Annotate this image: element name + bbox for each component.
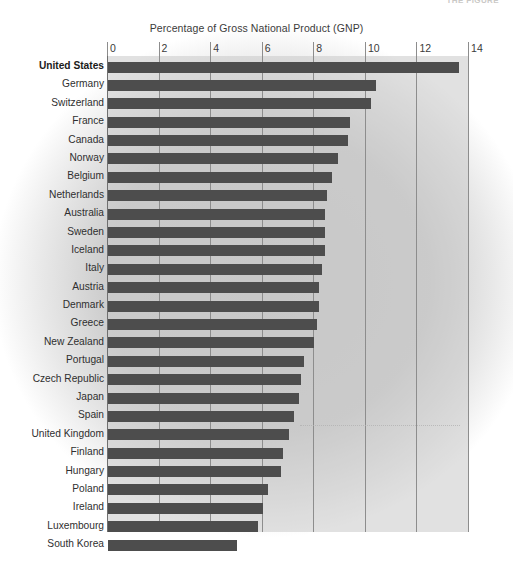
- category-label: Austria: [0, 281, 104, 292]
- x-tick-label-6: 6: [262, 42, 271, 54]
- bar: [108, 448, 283, 459]
- bar: [108, 282, 319, 293]
- category-label: Netherlands: [0, 189, 104, 200]
- category-label: Luxembourg: [0, 520, 104, 531]
- bar-row: Portugal: [0, 352, 513, 370]
- bar: [108, 356, 304, 367]
- bar-row: New Zealand: [0, 334, 513, 352]
- bar-row: Austria: [0, 279, 513, 297]
- category-label: Finland: [0, 446, 104, 457]
- category-label: Czech Republic: [0, 373, 104, 384]
- category-label: Poland: [0, 483, 104, 494]
- bar: [108, 227, 325, 238]
- x-tick-label-0: 0: [107, 42, 116, 54]
- category-label: Italy: [0, 262, 104, 273]
- bar: [108, 153, 338, 164]
- bar-row: Canada: [0, 132, 513, 150]
- bar: [108, 374, 301, 385]
- bar: [108, 190, 327, 201]
- bar-row: South Korea: [0, 536, 513, 554]
- bar-row: Ireland: [0, 499, 513, 517]
- bar-row: United Kingdom: [0, 426, 513, 444]
- category-label: Hungary: [0, 465, 104, 476]
- category-label: Belgium: [0, 170, 104, 181]
- bar: [108, 209, 325, 220]
- bar: [108, 521, 258, 532]
- bar-rows: United StatesGermanySwitzerlandFranceCan…: [0, 58, 513, 555]
- bar: [108, 264, 322, 275]
- x-tick-label-2: 2: [159, 42, 168, 54]
- bar-row: Hungary: [0, 463, 513, 481]
- category-label: Canada: [0, 134, 104, 145]
- bar-row: Italy: [0, 260, 513, 278]
- bar: [108, 172, 332, 183]
- bar-row: Netherlands: [0, 187, 513, 205]
- x-tick-label-4: 4: [210, 42, 219, 54]
- bar: [108, 337, 314, 348]
- bar: [108, 117, 350, 128]
- bar-row: Poland: [0, 481, 513, 499]
- category-label: France: [0, 115, 104, 126]
- category-label: Greece: [0, 317, 104, 328]
- bar-row: Spain: [0, 407, 513, 425]
- bar: [108, 429, 289, 440]
- category-label: Australia: [0, 207, 104, 218]
- bar-row: Germany: [0, 76, 513, 94]
- bar-row: Finland: [0, 444, 513, 462]
- category-label: Spain: [0, 409, 104, 420]
- bar: [108, 503, 263, 514]
- category-label: Iceland: [0, 244, 104, 255]
- x-tick-label-8: 8: [313, 42, 322, 54]
- category-label: Switzerland: [0, 97, 104, 108]
- bar-row: Greece: [0, 315, 513, 333]
- category-label: New Zealand: [0, 336, 104, 347]
- chart-title: Percentage of Gross National Product (GN…: [0, 22, 513, 34]
- x-tick-label-12: 12: [416, 42, 431, 54]
- bar-row: Luxembourg: [0, 518, 513, 536]
- bar: [108, 135, 348, 146]
- x-tick-label-14: 14: [468, 42, 483, 54]
- bar-row: Denmark: [0, 297, 513, 315]
- bar: [108, 80, 376, 91]
- bar: [108, 411, 294, 422]
- category-label: United Kingdom: [0, 428, 104, 439]
- category-label: Sweden: [0, 226, 104, 237]
- category-label: Portugal: [0, 354, 104, 365]
- category-label: South Korea: [0, 538, 104, 549]
- x-axis-tick-labels: 02468101214: [107, 42, 487, 56]
- bar-row: France: [0, 113, 513, 131]
- category-label: Japan: [0, 391, 104, 402]
- bar: [108, 98, 371, 109]
- bar-row: Japan: [0, 389, 513, 407]
- bar: [108, 393, 299, 404]
- bar: [108, 301, 319, 312]
- bar-row: Switzerland: [0, 95, 513, 113]
- bar-row: Iceland: [0, 242, 513, 260]
- x-tick-label-10: 10: [365, 42, 380, 54]
- bar: [108, 466, 281, 477]
- bar: [108, 62, 459, 73]
- bar: [108, 245, 325, 256]
- bar-row: Norway: [0, 150, 513, 168]
- category-label: Germany: [0, 78, 104, 89]
- bar-row: United States: [0, 58, 513, 76]
- bar: [108, 484, 268, 495]
- bar-row: Sweden: [0, 224, 513, 242]
- category-label: Ireland: [0, 501, 104, 512]
- category-label: United States: [0, 60, 104, 71]
- bar-row: Australia: [0, 205, 513, 223]
- category-label: Denmark: [0, 299, 104, 310]
- gnp-bar-chart-figure: Percentage of Gross National Product (GN…: [0, 0, 513, 563]
- bar-row: Czech Republic: [0, 371, 513, 389]
- bar-row: Belgium: [0, 168, 513, 186]
- bar: [108, 319, 317, 330]
- bar: [108, 540, 237, 551]
- category-label: Norway: [0, 152, 104, 163]
